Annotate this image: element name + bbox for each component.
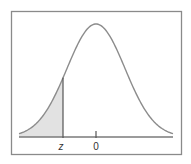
z-label: z — [58, 141, 64, 152]
left-tail-shaded-area — [19, 78, 63, 137]
normal-distribution-figure: z 0 — [0, 0, 191, 164]
zero-label: 0 — [93, 141, 99, 152]
bell-curve — [19, 24, 173, 134]
